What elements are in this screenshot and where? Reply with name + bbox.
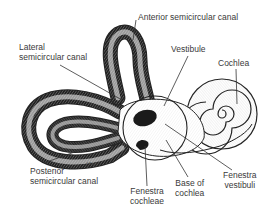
- label-anterior-semicircular-canal: Anterior semicircular canal: [138, 13, 238, 23]
- label-posterior-line2: semicircular canal: [30, 177, 98, 187]
- label-base-of-cochlea-line2: cochlea: [175, 189, 204, 199]
- label-base-of-cochlea: Base of cochlea: [175, 179, 204, 198]
- label-posterior-semicircular-canal: Posterior semicircular canal: [30, 167, 98, 186]
- artist-signature: J.Todd: [86, 161, 98, 166]
- label-lateral-line2: semicircular canal: [19, 53, 87, 63]
- label-vestibule: Vestibule: [171, 45, 206, 55]
- label-fenestra-cochleae: Fenestra cochleae: [130, 187, 164, 206]
- anterior-semicircular-canal: [110, 32, 148, 104]
- label-cochlea: Cochlea: [218, 59, 249, 69]
- label-fenestra-vestibuli-line2: vestibuli: [223, 181, 257, 191]
- label-lateral-semicircular-canal: Lateral semicircular canal: [19, 43, 87, 62]
- label-fenestra-cochleae-line2: cochleae: [130, 197, 164, 207]
- lateral-semicircular-canal: [52, 122, 125, 148]
- label-fenestra-vestibuli: Fenestra vestibuli: [223, 171, 257, 190]
